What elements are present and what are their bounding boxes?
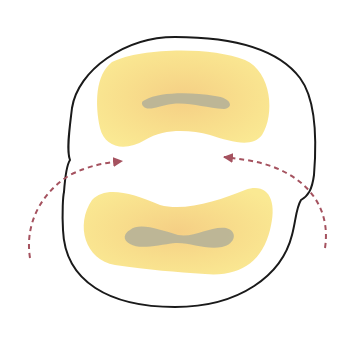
lower-region [84,188,273,274]
diagram-canvas [0,0,350,352]
diagram-svg [0,0,350,352]
